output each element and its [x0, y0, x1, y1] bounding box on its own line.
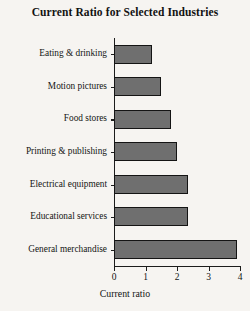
bar-row	[114, 201, 240, 234]
bar	[114, 175, 188, 194]
x-axis-tick	[114, 266, 115, 271]
plot-area: 01234	[114, 38, 240, 266]
y-axis-tick	[111, 185, 115, 186]
x-axis-tick	[209, 266, 210, 271]
y-axis-tick	[111, 54, 115, 55]
bar-row	[114, 103, 240, 136]
bar	[114, 110, 171, 129]
y-axis-tick	[111, 250, 115, 251]
bar	[114, 207, 188, 226]
category-label: General merchandise	[0, 244, 107, 254]
x-axis-tick-label: 3	[199, 272, 219, 282]
x-axis-tick-label: 1	[136, 272, 156, 282]
x-axis-tick-label: 0	[104, 272, 124, 282]
y-axis-tick	[111, 152, 115, 153]
bar-row	[114, 168, 240, 201]
bar-row	[114, 233, 240, 266]
x-axis-title: Current ratio	[0, 288, 250, 299]
x-axis-tick	[146, 266, 147, 271]
x-axis-tick	[177, 266, 178, 271]
bar	[114, 240, 237, 259]
chart-title: Current Ratio for Selected Industries	[0, 6, 250, 18]
category-label: Food stores	[0, 113, 107, 123]
category-label: Motion pictures	[0, 81, 107, 91]
bar-row	[114, 136, 240, 169]
y-axis-tick	[111, 87, 115, 88]
bar	[114, 45, 152, 64]
bar	[114, 142, 177, 161]
x-axis-tick-label: 4	[230, 272, 250, 282]
x-axis-tick-label: 2	[167, 272, 187, 282]
category-label: Eating & drinking	[0, 48, 107, 58]
x-axis-tick	[240, 266, 241, 271]
y-axis-tick	[111, 217, 115, 218]
bar-chart: Current Ratio for Selected Industries 01…	[0, 0, 250, 311]
bar-row	[114, 38, 240, 71]
bar	[114, 77, 161, 96]
category-label: Educational services	[0, 211, 107, 221]
category-label: Electrical equipment	[0, 179, 107, 189]
category-label: Printing & publishing	[0, 146, 107, 156]
bar-row	[114, 71, 240, 104]
y-axis-tick	[111, 119, 115, 120]
